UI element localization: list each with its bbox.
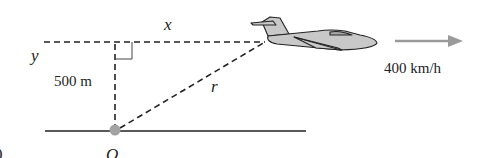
- label-origin: O: [106, 145, 118, 158]
- label-x: x: [163, 15, 172, 34]
- distance-r-dashed-line: [120, 42, 265, 128]
- airplane-icon: [251, 17, 377, 50]
- related-rates-diagram: x y r O 500 m 400 km/h 0: [0, 0, 478, 158]
- label-r: r: [211, 77, 218, 96]
- origin-point: [110, 125, 121, 136]
- label-y: y: [29, 46, 39, 65]
- velocity-arrow-icon: [395, 35, 463, 47]
- label-edge-fragment: 0: [0, 145, 3, 158]
- right-angle-marker: [115, 42, 132, 59]
- label-speed: 400 km/h: [384, 60, 442, 76]
- label-height: 500 m: [54, 73, 92, 89]
